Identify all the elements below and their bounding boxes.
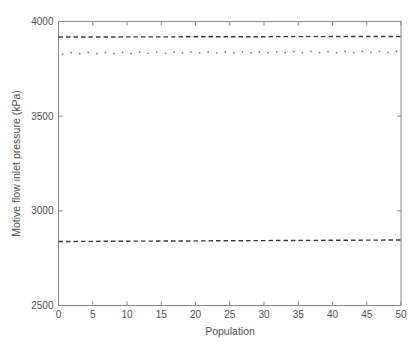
x-tick-label: 25 — [215, 309, 245, 320]
data-point — [199, 52, 201, 54]
data-point — [387, 51, 389, 53]
data-point — [113, 53, 115, 55]
series-upper-bound-dashed — [59, 36, 402, 37]
x-tick-label: 40 — [318, 309, 348, 320]
x-tick-label: 30 — [249, 309, 279, 320]
data-point — [310, 51, 312, 53]
data-point — [156, 51, 158, 53]
data-point — [370, 51, 372, 53]
x-tick-label: 10 — [112, 309, 142, 320]
data-point — [139, 51, 141, 53]
data-point — [319, 52, 321, 54]
data-point — [242, 51, 244, 53]
plot-area — [0, 0, 420, 353]
data-point — [182, 52, 184, 54]
data-point — [224, 51, 226, 53]
data-point — [276, 51, 278, 53]
data-point — [396, 50, 398, 52]
data-point — [216, 52, 218, 54]
data-point — [327, 51, 329, 53]
data-point — [87, 51, 89, 53]
data-point — [122, 51, 124, 53]
data-point — [344, 51, 346, 53]
series-lower-bound-dashed — [59, 240, 402, 242]
data-point — [284, 52, 286, 54]
x-tick-label: 35 — [283, 309, 313, 320]
data-point — [130, 53, 132, 55]
data-point — [147, 52, 149, 54]
data-point — [105, 52, 107, 54]
y-tick-label: 4000 — [20, 16, 54, 27]
data-point — [267, 52, 269, 54]
y-tick-label: 2500 — [20, 300, 54, 311]
y-tick-label: 3500 — [20, 111, 54, 122]
x-axis-label: Population — [179, 325, 281, 337]
data-point — [190, 51, 192, 53]
y-tick-label: 3000 — [20, 205, 54, 216]
x-tick-label: 5 — [78, 309, 108, 320]
data-point — [164, 52, 166, 54]
data-point — [361, 51, 363, 53]
y-axis-label: Motive flow inlet pressure (kPa) — [10, 14, 23, 314]
x-tick-label: 45 — [352, 309, 382, 320]
data-point — [379, 51, 381, 53]
data-point — [70, 52, 72, 54]
data-point — [259, 51, 261, 53]
x-tick-label: 20 — [181, 309, 211, 320]
data-point — [207, 51, 209, 53]
data-point — [250, 52, 252, 54]
data-point — [173, 51, 175, 53]
axes-frame — [59, 22, 402, 306]
data-point — [79, 53, 81, 55]
x-tick-label: 15 — [146, 309, 176, 320]
series-mean-dotted — [62, 50, 398, 54]
x-tick-label: 50 — [386, 309, 416, 320]
figure-container: 05101520253035404550 2500300035004000 Po… — [0, 0, 420, 353]
data-point — [336, 52, 338, 54]
data-point — [293, 51, 295, 53]
data-point — [301, 52, 303, 54]
data-point — [96, 53, 98, 55]
data-point — [62, 53, 64, 55]
data-point — [353, 52, 355, 54]
data-point — [233, 52, 235, 54]
